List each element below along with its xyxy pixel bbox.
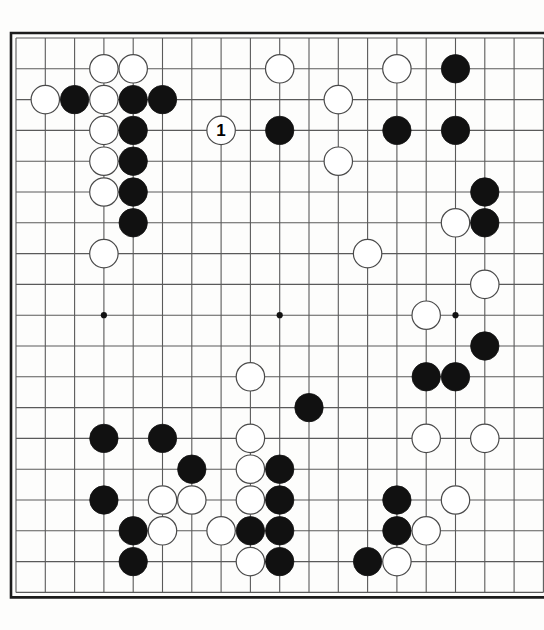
black-stone-disc[interactable] bbox=[236, 517, 264, 545]
white-stone-disc[interactable] bbox=[148, 486, 176, 514]
black-stone[interactable] bbox=[148, 424, 176, 452]
white-stone[interactable] bbox=[441, 486, 469, 514]
black-stone-disc[interactable] bbox=[266, 517, 294, 545]
white-stone[interactable] bbox=[148, 486, 176, 514]
white-stone[interactable] bbox=[119, 55, 147, 83]
black-stone[interactable] bbox=[441, 55, 469, 83]
white-stone[interactable] bbox=[207, 517, 235, 545]
black-stone[interactable] bbox=[266, 547, 294, 575]
black-stone[interactable] bbox=[119, 178, 147, 206]
black-stone[interactable] bbox=[178, 455, 206, 483]
black-stone[interactable] bbox=[441, 116, 469, 144]
white-stone[interactable] bbox=[324, 147, 352, 175]
black-stone[interactable] bbox=[119, 85, 147, 113]
white-stone-disc[interactable] bbox=[236, 486, 264, 514]
black-stone-disc[interactable] bbox=[412, 363, 440, 391]
white-stone-disc[interactable] bbox=[119, 55, 147, 83]
black-stone[interactable] bbox=[148, 85, 176, 113]
black-stone-disc[interactable] bbox=[148, 424, 176, 452]
white-stone[interactable] bbox=[471, 424, 499, 452]
white-stone[interactable] bbox=[90, 178, 118, 206]
black-stone-disc[interactable] bbox=[471, 178, 499, 206]
white-stone-disc[interactable] bbox=[266, 55, 294, 83]
move-marker-1[interactable]: 1 bbox=[207, 116, 235, 144]
black-stone-disc[interactable] bbox=[119, 85, 147, 113]
black-stone-disc[interactable] bbox=[266, 116, 294, 144]
black-stone-disc[interactable] bbox=[119, 116, 147, 144]
white-stone[interactable] bbox=[236, 486, 264, 514]
black-stone[interactable] bbox=[266, 486, 294, 514]
white-stone[interactable] bbox=[90, 239, 118, 267]
white-stone[interactable] bbox=[31, 85, 59, 113]
white-stone[interactable] bbox=[412, 517, 440, 545]
white-stone-disc[interactable] bbox=[31, 85, 59, 113]
black-stone[interactable] bbox=[353, 547, 381, 575]
black-stone-disc[interactable] bbox=[119, 147, 147, 175]
black-stone-disc[interactable] bbox=[441, 116, 469, 144]
black-stone[interactable] bbox=[90, 486, 118, 514]
black-stone[interactable] bbox=[441, 363, 469, 391]
white-stone[interactable] bbox=[383, 55, 411, 83]
white-stone-disc[interactable] bbox=[236, 455, 264, 483]
black-stone[interactable] bbox=[471, 332, 499, 360]
black-stone[interactable] bbox=[119, 209, 147, 237]
white-stone-disc[interactable] bbox=[90, 85, 118, 113]
black-stone[interactable] bbox=[295, 393, 323, 421]
black-stone-disc[interactable] bbox=[383, 517, 411, 545]
black-stone-disc[interactable] bbox=[148, 85, 176, 113]
white-stone[interactable] bbox=[90, 147, 118, 175]
black-stone-disc[interactable] bbox=[441, 55, 469, 83]
white-stone-disc[interactable] bbox=[90, 116, 118, 144]
white-stone-disc[interactable] bbox=[236, 363, 264, 391]
white-stone-disc[interactable] bbox=[412, 424, 440, 452]
black-stone-disc[interactable] bbox=[266, 547, 294, 575]
white-stone-disc[interactable] bbox=[207, 517, 235, 545]
black-stone[interactable] bbox=[412, 363, 440, 391]
black-stone-disc[interactable] bbox=[119, 547, 147, 575]
black-stone-disc[interactable] bbox=[441, 363, 469, 391]
black-stone-disc[interactable] bbox=[119, 517, 147, 545]
black-stone-disc[interactable] bbox=[266, 455, 294, 483]
black-stone[interactable] bbox=[236, 517, 264, 545]
white-stone[interactable] bbox=[412, 424, 440, 452]
black-stone-disc[interactable] bbox=[119, 209, 147, 237]
white-stone[interactable] bbox=[90, 55, 118, 83]
white-stone[interactable] bbox=[353, 239, 381, 267]
white-stone[interactable] bbox=[266, 55, 294, 83]
black-stone-disc[interactable] bbox=[178, 455, 206, 483]
white-stone[interactable] bbox=[383, 547, 411, 575]
black-stone[interactable] bbox=[383, 486, 411, 514]
black-stone-disc[interactable] bbox=[383, 116, 411, 144]
white-stone-disc[interactable] bbox=[90, 239, 118, 267]
black-stone-disc[interactable] bbox=[295, 393, 323, 421]
white-stone[interactable] bbox=[236, 424, 264, 452]
black-stone-disc[interactable] bbox=[471, 332, 499, 360]
white-stone-disc[interactable] bbox=[353, 239, 381, 267]
white-stone-disc[interactable] bbox=[412, 517, 440, 545]
black-stone[interactable] bbox=[383, 116, 411, 144]
white-stone-disc[interactable] bbox=[148, 517, 176, 545]
white-stone-disc[interactable] bbox=[324, 147, 352, 175]
white-stone[interactable] bbox=[324, 85, 352, 113]
white-stone[interactable] bbox=[412, 301, 440, 329]
white-stone-disc[interactable] bbox=[236, 424, 264, 452]
white-stone[interactable] bbox=[471, 270, 499, 298]
white-stone-disc[interactable] bbox=[90, 55, 118, 83]
white-stone[interactable] bbox=[441, 209, 469, 237]
white-stone-disc[interactable] bbox=[412, 301, 440, 329]
black-stone-disc[interactable] bbox=[471, 209, 499, 237]
white-stone[interactable] bbox=[236, 455, 264, 483]
black-stone[interactable] bbox=[383, 517, 411, 545]
white-stone-disc[interactable] bbox=[471, 270, 499, 298]
black-stone[interactable] bbox=[119, 547, 147, 575]
black-stone-disc[interactable] bbox=[119, 178, 147, 206]
black-stone-disc[interactable] bbox=[90, 424, 118, 452]
black-stone[interactable] bbox=[471, 178, 499, 206]
black-stone-disc[interactable] bbox=[353, 547, 381, 575]
black-stone[interactable] bbox=[266, 455, 294, 483]
white-stone-disc[interactable] bbox=[383, 547, 411, 575]
white-stone[interactable] bbox=[236, 547, 264, 575]
black-stone-disc[interactable] bbox=[266, 486, 294, 514]
go-board-canvas[interactable]: 1 bbox=[0, 0, 544, 630]
white-stone-disc[interactable] bbox=[90, 178, 118, 206]
